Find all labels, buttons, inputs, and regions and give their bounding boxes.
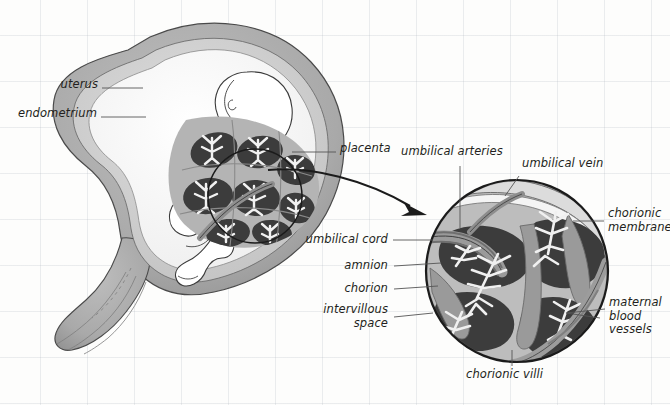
anatomical-figure: uterus endometrium placenta umbilical ar… <box>0 0 670 405</box>
label-umbilical-cord: umbilical cord <box>295 233 388 247</box>
cervix-region <box>55 238 150 351</box>
label-chorionic-villi: chorionic villi <box>466 368 576 382</box>
label-maternal-blood-vessels: maternal blood vessels <box>609 296 669 337</box>
label-endometrium: endometrium <box>4 107 97 121</box>
label-amnion: amnion <box>300 259 388 273</box>
label-chorionic-membrane: chorionic membrane <box>608 207 670 234</box>
label-umbilical-arteries: umbilical arteries <box>401 145 531 159</box>
label-umbilical-vein: umbilical vein <box>522 157 632 171</box>
leader-intervillous-space <box>394 313 433 317</box>
label-uterus: uterus <box>10 78 98 92</box>
label-intervillous-space: intervillous space <box>296 303 388 330</box>
label-chorion: chorion <box>300 282 388 296</box>
diagram-artwork <box>0 0 670 405</box>
